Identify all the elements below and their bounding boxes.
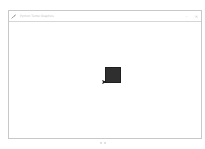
close-button[interactable]: ✕ bbox=[194, 14, 199, 19]
feather-icon bbox=[11, 13, 17, 19]
filled-square bbox=[105, 67, 121, 83]
drawing-canvas[interactable] bbox=[9, 22, 201, 138]
app-window: Python Turtle Graphics – ✕ bbox=[8, 10, 202, 139]
taskbar-dot bbox=[104, 142, 106, 144]
window-title: Python Turtle Graphics bbox=[20, 14, 54, 18]
minimize-button[interactable]: – bbox=[184, 14, 189, 19]
turtle-cursor-icon bbox=[102, 80, 107, 84]
taskbar-dot bbox=[100, 142, 102, 144]
title-bar[interactable]: Python Turtle Graphics – ✕ bbox=[9, 11, 201, 22]
taskbar-indicator bbox=[88, 141, 118, 145]
window-controls: – ✕ bbox=[184, 11, 199, 21]
